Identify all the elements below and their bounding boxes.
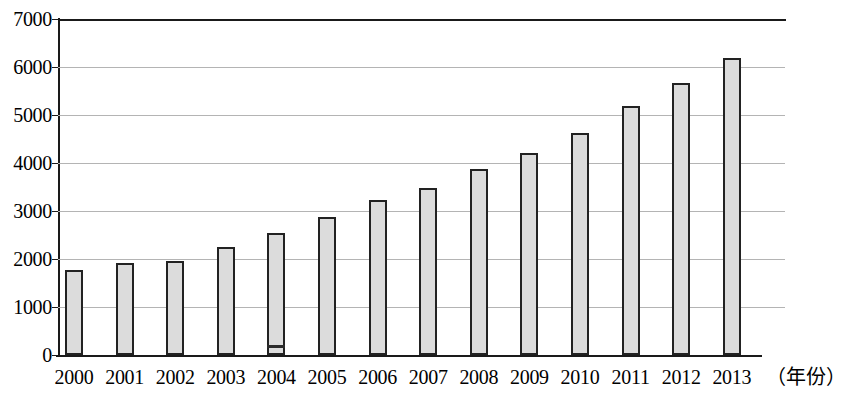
- bar-2013: [723, 58, 741, 355]
- bar-2002: [166, 261, 184, 355]
- y-tick-label: 3000: [0, 201, 52, 221]
- gridline: [58, 67, 785, 68]
- bar-2008: [470, 169, 488, 355]
- y-tick-label: 5000: [0, 105, 52, 125]
- bar-2011: [622, 106, 640, 355]
- y-tick-mark: [52, 163, 58, 164]
- bar-2000: [65, 270, 83, 355]
- y-axis-line: [58, 18, 60, 356]
- bar-2005: [318, 217, 336, 355]
- y-tick-label: 7000: [0, 9, 52, 29]
- y-tick-mark: [52, 259, 58, 260]
- y-tick-label: 6000: [0, 57, 52, 77]
- bar-2004: [267, 233, 285, 355]
- y-tick-mark: [52, 19, 58, 20]
- bar-2003: [217, 247, 235, 355]
- bar-2012: [672, 83, 690, 355]
- y-tick-mark: [52, 67, 58, 68]
- y-tick-label: 2000: [0, 249, 52, 269]
- bar-2007: [419, 188, 437, 355]
- y-tick-label: 0: [0, 345, 52, 365]
- x-axis-line: [56, 355, 762, 357]
- plot-area: [58, 19, 786, 355]
- y-tick-mark: [52, 211, 58, 212]
- y-tick-label: 4000: [0, 153, 52, 173]
- y-tick-mark: [52, 307, 58, 308]
- x-axis-title: （年份）: [766, 366, 846, 388]
- y-tick-label: 1000: [0, 297, 52, 317]
- bar-2006: [369, 200, 387, 355]
- x-tick-label-2013: 2013: [692, 366, 772, 388]
- bar-2010: [571, 133, 589, 355]
- y-tick-mark: [52, 355, 58, 356]
- bar-2009: [520, 153, 538, 355]
- plot-top-border: [58, 19, 786, 21]
- bar-chart: 01000200030004000500060007000 2000200120…: [0, 0, 847, 395]
- bar-2001: [116, 263, 134, 355]
- y-tick-mark: [52, 115, 58, 116]
